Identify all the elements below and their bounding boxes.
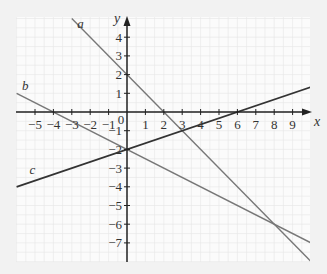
- x-tick-label: 5: [216, 117, 223, 132]
- x-tick-label: −5: [28, 117, 42, 132]
- x-tick-label: 9: [289, 117, 296, 132]
- y-tick-label: −6: [108, 217, 122, 232]
- x-tick-label: −2: [83, 117, 97, 132]
- y-tick-label: −7: [108, 235, 122, 250]
- x-tick-label: −4: [46, 117, 60, 132]
- y-tick-label: −3: [108, 161, 122, 176]
- x-tick-label: 3: [179, 117, 186, 132]
- y-tick-label: −4: [108, 179, 122, 194]
- x-tick-label: 4: [197, 117, 204, 132]
- y-tick-label: −5: [108, 198, 122, 213]
- x-tick-label: 8: [271, 117, 278, 132]
- x-tick-label: −3: [65, 117, 79, 132]
- y-tick-label: 3: [116, 48, 123, 63]
- x-tick-label: 2: [161, 117, 168, 132]
- x-axis-label: x: [313, 114, 321, 129]
- y-tick-label: −2: [108, 142, 122, 157]
- y-tick-label: 1: [116, 86, 123, 101]
- line-label-b: b: [22, 78, 29, 93]
- y-axis-label: y: [112, 11, 121, 26]
- line-label-a: a: [77, 16, 84, 31]
- plot-area: [16, 17, 310, 262]
- x-tick-label: 1: [142, 117, 149, 132]
- y-tick-label: −1: [108, 123, 122, 138]
- y-tick-label: 2: [116, 67, 123, 82]
- line-chart: xy −5−4−3−2−112345678904321−1−2−3−4−5−6−…: [0, 0, 327, 274]
- line-label-c: c: [29, 162, 35, 177]
- x-tick-label: 6: [234, 117, 241, 132]
- y-tick-label: 4: [116, 30, 123, 45]
- x-tick-label: 7: [253, 117, 260, 132]
